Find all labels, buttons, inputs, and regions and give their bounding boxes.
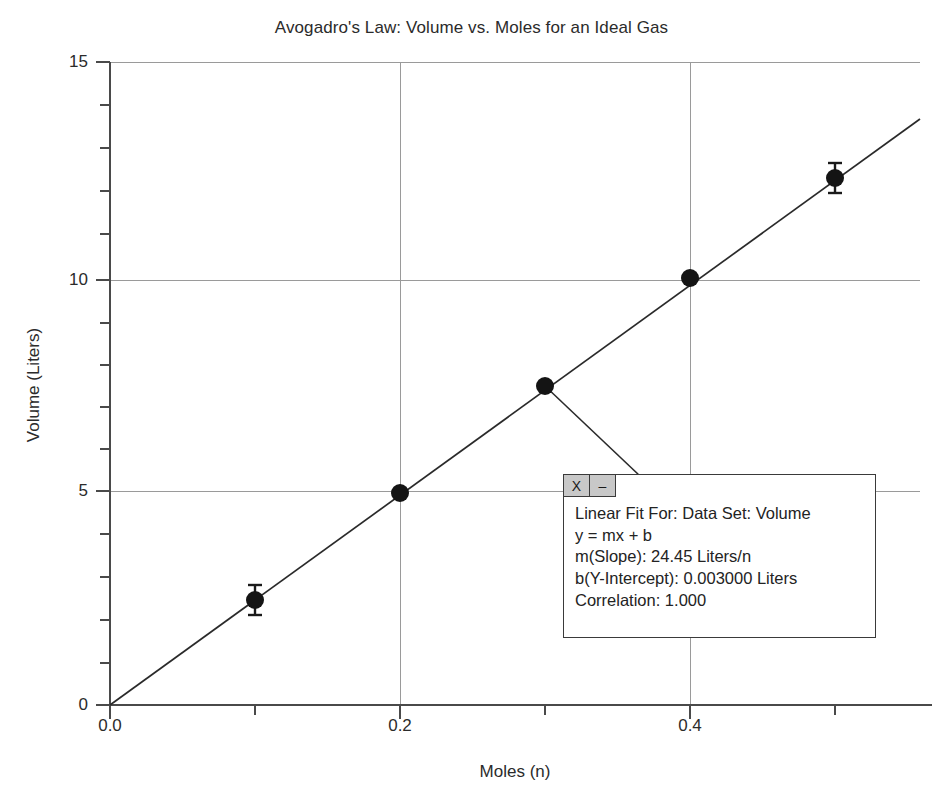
chart-canvas: Avogadro's Law: Volume vs. Moles for an … (0, 0, 943, 793)
fit-correlation-line: Correlation: 1.000 (575, 590, 867, 612)
fit-box-body: Linear Fit For: Data Set: Volume y = mx … (575, 503, 867, 611)
x-tick-labels: 0.0 0.2 0.4 (0, 0, 943, 793)
fit-box-titlebar[interactable]: X – (564, 475, 616, 497)
linear-fit-info-box[interactable]: X – Linear Fit For: Data Set: Volume y =… (563, 474, 876, 638)
x-tick-label: 0.2 (360, 716, 440, 736)
fit-equation-line: y = mx + b (575, 525, 867, 547)
x-axis-title: Moles (n) (110, 762, 920, 782)
minimize-icon[interactable]: – (590, 475, 616, 497)
y-axis-title: Volume (Liters) (24, 255, 44, 515)
fit-dataset-line: Linear Fit For: Data Set: Volume (575, 503, 867, 525)
x-tick-label: 0.4 (650, 716, 730, 736)
x-tick-label: 0.0 (70, 716, 150, 736)
close-icon[interactable]: X (564, 475, 590, 497)
fit-intercept-line: b(Y-Intercept): 0.003000 Liters (575, 568, 867, 590)
fit-slope-line: m(Slope): 24.45 Liters/n (575, 546, 867, 568)
